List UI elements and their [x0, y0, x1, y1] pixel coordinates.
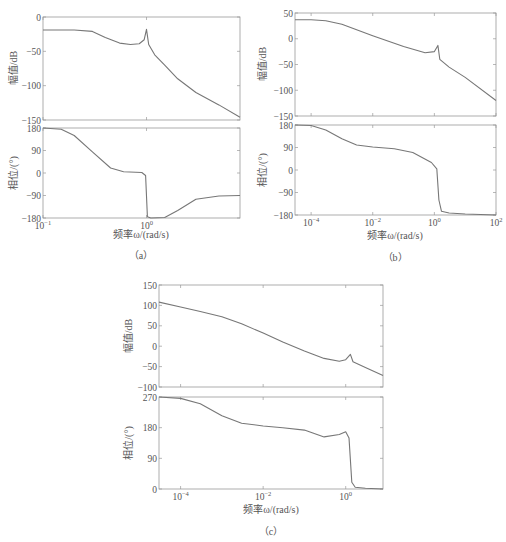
plot-b-phase-axes [295, 125, 496, 215]
plot-c-phase-curve [159, 397, 383, 489]
plot-b-x-ticks: 10−410−2100102 [303, 216, 502, 228]
plot-a-phase-ylabel: 相位/(°) [7, 156, 20, 189]
y-tick-label: 180 [279, 121, 294, 131]
plot-b: 500−50−100−150 180900−90−180 10−410−2100… [256, 9, 502, 264]
plot-c-x-ticks: 10−410−2100 [172, 490, 352, 502]
y-tick-label: −90 [278, 188, 293, 198]
y-tick-label: −180 [273, 211, 293, 221]
y-tick-label: 150 [143, 281, 158, 291]
plot-a-magnitude-axes [43, 17, 240, 120]
plot-b-phase-ticks: 180900−90−180 [273, 121, 496, 221]
y-tick-label: 90 [32, 146, 42, 156]
plot-a-magnitude-ylabel: 幅值/dB [7, 50, 19, 85]
y-tick-label: 100 [143, 301, 158, 311]
x-tick-label: 10−4 [172, 490, 189, 502]
plot-c-magnitude-ylabel: 幅值/dB [122, 318, 134, 353]
plot-b-magnitude-ticks: 500−50−100−150 [273, 9, 496, 122]
y-tick-label: −100 [21, 81, 41, 91]
x-tick-label: 100 [339, 490, 352, 502]
plot-b-magnitude-axes [295, 13, 496, 116]
y-tick-label: −100 [137, 383, 157, 393]
plot-a-xlabel: 频率ω/(rad/s) [113, 228, 168, 241]
y-tick-label: 270 [143, 393, 158, 403]
y-tick-label: 0 [36, 13, 41, 23]
plot-c-xlabel: 频率ω/(rad/s) [243, 503, 298, 516]
bode-figure: 0−50−100−150 180900−90−180 10−1100 幅值/dB… [0, 0, 506, 542]
y-tick-label: 50 [148, 321, 158, 331]
plot-b-phase-ylabel: 相位/(°) [256, 153, 269, 186]
plot-c-phase-ticks: 270180900 [143, 393, 383, 495]
y-tick-label: −90 [26, 191, 41, 201]
plot-c-magnitude-axes [159, 285, 383, 387]
x-tick-label: 10−4 [303, 216, 320, 228]
y-tick-label: 180 [143, 423, 158, 433]
plot-b-magnitude-ylabel: 幅值/dB [256, 46, 268, 81]
plot-a-caption: （a） [129, 250, 153, 261]
x-tick-label: 10−2 [365, 216, 381, 228]
plot-a-phase-curve [43, 128, 240, 218]
y-tick-label: 0 [36, 169, 41, 179]
plot-a: 0−50−100−150 180900−90−180 10−1100 幅值/dB… [7, 13, 240, 262]
y-tick-label: 0 [288, 166, 293, 176]
y-tick-label: 90 [284, 143, 294, 153]
y-tick-label: 0 [152, 342, 157, 352]
plot-a-magnitude-curve [43, 29, 240, 117]
x-tick-label: 10−2 [255, 490, 271, 502]
plot-a-phase-ticks: 180900−90−180 [21, 124, 240, 224]
plot-b-caption: （b） [383, 252, 408, 263]
plot-b-phase-curve [295, 125, 496, 215]
y-tick-label: −50 [278, 60, 293, 70]
x-tick-label: 102 [490, 216, 503, 228]
plot-c-phase-ylabel: 相位/(°) [122, 426, 135, 459]
plot-c: 150100500−50−100 270180900 10−410−2100 幅… [122, 281, 383, 538]
y-tick-label: −100 [273, 86, 293, 96]
x-tick-label: 10−1 [35, 219, 51, 231]
y-tick-label: 90 [148, 454, 158, 464]
y-tick-label: 50 [284, 9, 294, 19]
plot-c-caption: （c） [259, 526, 283, 537]
y-tick-label: 0 [288, 34, 293, 44]
y-tick-label: −50 [142, 362, 157, 372]
x-tick-label: 100 [428, 216, 441, 228]
y-tick-label: −50 [26, 47, 41, 57]
y-tick-label: 180 [27, 124, 42, 134]
plot-b-magnitude-curve [295, 20, 496, 101]
plot-c-magnitude-curve [159, 302, 383, 376]
plot-c-magnitude-ticks: 150100500−50−100 [137, 281, 383, 393]
plot-b-xlabel: 频率ω/(rad/s) [367, 229, 422, 242]
y-tick-label: 0 [152, 485, 157, 495]
